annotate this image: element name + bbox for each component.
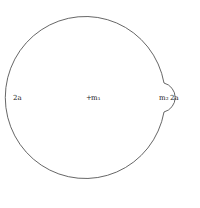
large-sphere-outline <box>5 16 164 178</box>
small-sphere-radius-label: 2a <box>170 94 179 102</box>
left-radius-label: 2a <box>13 94 22 102</box>
diagram-canvas: 2a + m₁ m₂ 2a <box>0 0 200 208</box>
large-sphere-mass-label: m₁ <box>91 94 101 102</box>
small-sphere-mass-label: m₂ <box>159 94 169 102</box>
